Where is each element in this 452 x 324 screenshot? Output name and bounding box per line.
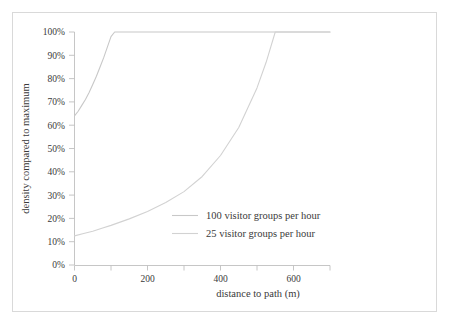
x-tick-label: 200 [140,274,155,284]
y-tick-label: 90% [48,51,66,61]
legend-label-100-visitor-groups: 100 visitor groups per hour [206,210,321,221]
x-tick-label: 600 [286,274,301,284]
x-tick-label: 400 [213,274,228,284]
x-axis-title: distance to path (m) [216,288,300,300]
y-tick-label: 0% [52,260,65,270]
y-tick-label: 70% [48,97,66,107]
y-tick-label: 80% [48,74,66,84]
x-axis-ticks [75,266,331,271]
y-tick-label: 60% [48,121,66,131]
y-tick-label: 40% [48,167,66,177]
x-axis-tick-labels: 0200400600 [72,274,301,284]
y-tick-label: 100% [43,27,65,37]
line-chart: 0%10%20%30%40%50%60%70%80%90%100% 020040… [0,0,452,324]
y-tick-label: 20% [48,214,66,224]
y-tick-label: 50% [48,144,66,154]
chart-legend: 100 visitor groups per hour 25 visitor g… [172,210,321,239]
x-tick-label: 0 [72,274,77,284]
y-tick-label: 30% [48,191,66,201]
series-line-1 [75,32,331,116]
series-line-2 [75,32,331,236]
y-axis-ticks [69,32,75,265]
chart-figure: 0%10%20%30%40%50%60%70%80%90%100% 020040… [0,0,452,324]
series-lines [75,32,331,236]
y-axis-title: density compared to maximum [20,83,31,213]
legend-label-25-visitor-groups: 25 visitor groups per hour [206,228,316,239]
y-axis-tick-labels: 0%10%20%30%40%50%60%70%80%90%100% [43,27,65,270]
y-tick-label: 10% [48,237,66,247]
